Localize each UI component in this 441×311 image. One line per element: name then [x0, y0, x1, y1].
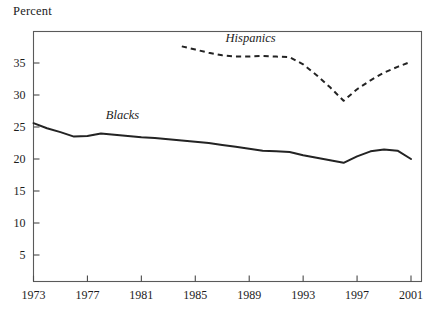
x-tick-label: 1989	[237, 288, 261, 302]
y-tick-label: 25	[14, 120, 26, 134]
series-label-blacks: Blacks	[106, 108, 139, 122]
y-tick-label: 15	[14, 184, 26, 198]
x-tick-label: 1981	[129, 288, 153, 302]
y-tick-label: 5	[20, 248, 26, 262]
series-line-hispanics	[182, 46, 411, 100]
x-axis-ticks: 19731977198119851989199319972001	[22, 276, 424, 302]
x-tick-label: 1985	[183, 288, 207, 302]
y-tick-label: 20	[14, 152, 26, 166]
data-series-group	[34, 46, 412, 162]
chart-figure: Percent 5101520253035 197319771981198519…	[0, 0, 441, 311]
x-tick-label: 1973	[22, 288, 46, 302]
series-label-group: BlacksHispanics	[106, 31, 276, 122]
plot-frame	[34, 32, 422, 282]
series-line-blacks	[34, 123, 412, 163]
x-tick-label: 1993	[291, 288, 315, 302]
y-tick-label: 30	[14, 88, 26, 102]
y-tick-label: 10	[14, 216, 26, 230]
y-axis-ticks: 5101520253035	[14, 56, 40, 262]
y-tick-label: 35	[14, 56, 26, 70]
x-tick-label: 2001	[399, 288, 423, 302]
x-tick-label: 1977	[75, 288, 99, 302]
line-chart-plot: 5101520253035 19731977198119851989199319…	[0, 0, 441, 311]
series-label-hispanics: Hispanics	[225, 31, 276, 45]
x-tick-label: 1997	[345, 288, 369, 302]
